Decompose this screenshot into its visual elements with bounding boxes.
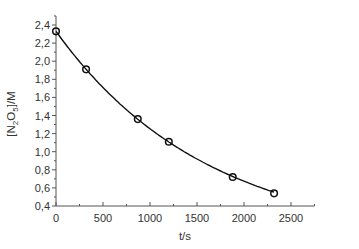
- y-axis: 0,40,60,81,01,21,41,61,82,02,22,4: [35, 16, 56, 212]
- y-tick-label: 1,4: [35, 110, 50, 122]
- y-tick-label: 0,8: [35, 164, 50, 176]
- x-axis-title: t/s: [179, 230, 191, 242]
- y-tick-label: 2,4: [35, 19, 50, 31]
- y-tick-label: 1,0: [35, 146, 50, 158]
- data-point-marker: [271, 190, 278, 197]
- y-tick-label: 0,4: [35, 200, 50, 212]
- x-tick-label: 1000: [138, 212, 162, 224]
- y-tick-label: 0,6: [35, 182, 50, 194]
- x-tick-label: 2000: [232, 212, 256, 224]
- data-points: [53, 28, 278, 197]
- x-tick-label: 1500: [185, 212, 209, 224]
- y-tick-label: 2,0: [35, 55, 50, 67]
- x-axis: 05001000150020002500: [53, 202, 315, 224]
- x-tick-label: 2500: [279, 212, 303, 224]
- y-tick-label: 2,2: [35, 37, 50, 49]
- x-tick-label: 0: [53, 212, 59, 224]
- chart: 0,40,60,81,01,21,41,61,82,02,22,4 050010…: [0, 0, 359, 249]
- y-axis-title: [N2O5]/M: [5, 91, 20, 136]
- y-tick-label: 1,6: [35, 91, 50, 103]
- fit-curve: [56, 31, 274, 192]
- y-tick-label: 1,2: [35, 128, 50, 140]
- y-tick-label: 1,8: [35, 73, 50, 85]
- x-tick-label: 500: [94, 212, 112, 224]
